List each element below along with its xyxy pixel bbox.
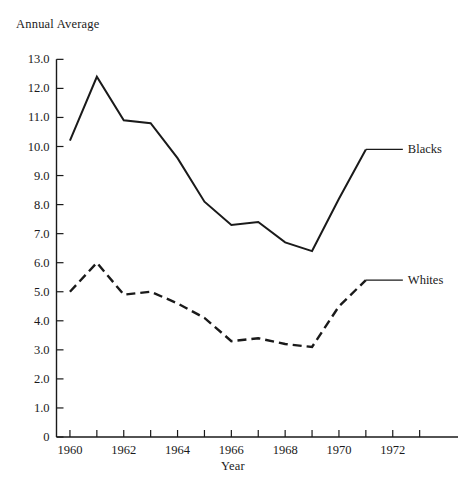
series-leader-lines xyxy=(366,149,403,280)
chart-axes xyxy=(57,59,459,437)
series-line-blacks xyxy=(70,77,366,251)
chart-figure: Annual Average Year 13.012.011.010.09.08… xyxy=(0,0,466,489)
series-label-blacks: Blacks xyxy=(408,142,442,157)
chart-plot-area xyxy=(0,0,466,489)
chart-series xyxy=(70,77,366,347)
series-label-whites: Whites xyxy=(408,273,443,288)
series-line-whites xyxy=(70,263,366,347)
